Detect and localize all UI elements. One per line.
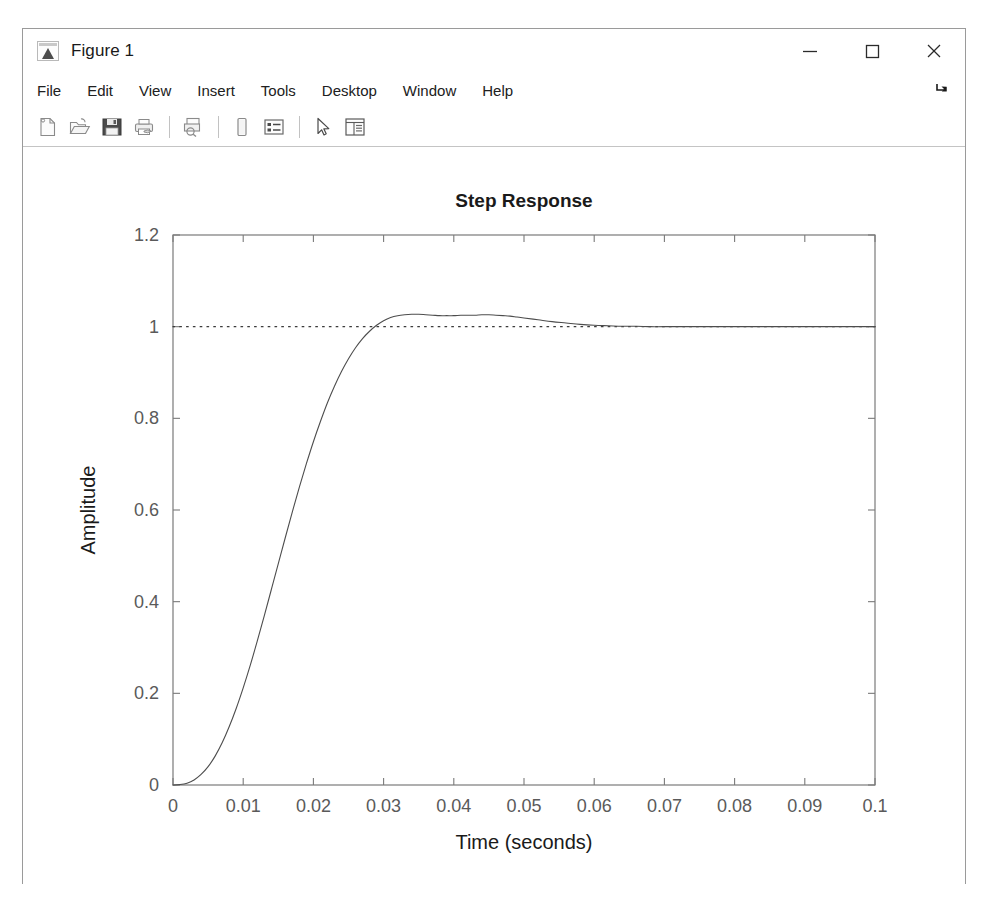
- print-figure-icon[interactable]: [129, 112, 159, 142]
- window-title: Figure 1: [71, 41, 134, 61]
- y-tick-label: 0.8: [134, 408, 159, 428]
- x-tick-label: 0: [168, 796, 178, 816]
- figure-plot-area[interactable]: Step Response00.010.020.030.040.050.060.…: [23, 147, 965, 887]
- y-tick-label: 1: [149, 317, 159, 337]
- toolbar-separator-2: [218, 116, 219, 138]
- x-axis-label: Time (seconds): [455, 831, 592, 853]
- matlab-figure-icon: [37, 41, 59, 61]
- y-tick-label: 1.2: [134, 225, 159, 245]
- dock-arrow-icon[interactable]: [933, 80, 951, 98]
- x-tick-label: 0.01: [226, 796, 261, 816]
- title-bar[interactable]: Figure 1: [23, 29, 965, 73]
- x-tick-label: 0.09: [787, 796, 822, 816]
- y-tick-label: 0.6: [134, 500, 159, 520]
- chart-title: Step Response: [455, 190, 592, 211]
- insert-legend-icon[interactable]: [259, 112, 289, 142]
- menu-item-view[interactable]: View: [139, 79, 184, 102]
- x-tick-label: 0.06: [577, 796, 612, 816]
- x-tick-label: 0.04: [436, 796, 471, 816]
- menu-item-edit[interactable]: Edit: [87, 79, 126, 102]
- insert-colorbar-icon[interactable]: [227, 112, 257, 142]
- step-response-line: [173, 314, 875, 785]
- y-tick-label: 0.2: [134, 683, 159, 703]
- pointer-select-icon[interactable]: [308, 112, 338, 142]
- step-response-chart: Step Response00.010.020.030.040.050.060.…: [23, 147, 965, 887]
- x-tick-label: 0.03: [366, 796, 401, 816]
- y-tick-label: 0.4: [134, 592, 159, 612]
- close-icon[interactable]: [903, 29, 965, 73]
- open-file-icon[interactable]: [65, 112, 95, 142]
- x-tick-label: 0.07: [647, 796, 682, 816]
- maximize-icon[interactable]: [841, 29, 903, 73]
- x-tick-label: 0.1: [862, 796, 887, 816]
- menu-item-window[interactable]: Window: [403, 79, 469, 102]
- menu-bar: File Edit View Insert Tools Desktop Wind…: [23, 73, 965, 107]
- menu-item-tools[interactable]: Tools: [261, 79, 309, 102]
- minimize-icon[interactable]: [779, 29, 841, 73]
- y-axis-label: Amplitude: [77, 466, 99, 555]
- tool-bar: [23, 107, 965, 147]
- x-tick-label: 0.08: [717, 796, 752, 816]
- window-controls: [779, 29, 965, 73]
- property-editor-icon[interactable]: [340, 112, 370, 142]
- figure-window: Figure 1 File Edit View Insert Tools Des: [22, 28, 966, 884]
- y-tick-label: 0: [149, 775, 159, 795]
- menu-item-desktop[interactable]: Desktop: [322, 79, 390, 102]
- toolbar-separator-3: [299, 116, 300, 138]
- screen-root: Figure 1 File Edit View Insert Tools Des: [0, 0, 989, 916]
- title-bar-left: Figure 1: [23, 41, 134, 61]
- x-tick-label: 0.05: [506, 796, 541, 816]
- new-figure-icon[interactable]: [33, 112, 63, 142]
- x-tick-label: 0.02: [296, 796, 331, 816]
- print-preview-icon[interactable]: [178, 112, 208, 142]
- menu-item-insert[interactable]: Insert: [197, 79, 248, 102]
- toolbar-separator-1: [169, 116, 170, 138]
- menu-item-file[interactable]: File: [37, 79, 74, 102]
- menu-item-help[interactable]: Help: [482, 79, 526, 102]
- save-figure-icon[interactable]: [97, 112, 127, 142]
